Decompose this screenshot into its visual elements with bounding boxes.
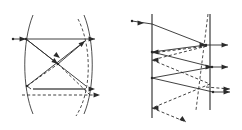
right-panel-dots	[131, 20, 215, 94]
curved-mirror-ray-diagram	[12, 15, 100, 116]
ray-down-to-right-mirror-2	[152, 52, 212, 67]
incoming-start-dot	[131, 20, 134, 23]
lower-dashed-exit-arrow	[94, 93, 100, 98]
dashed-left-to-center	[27, 64, 58, 86]
right-mirror-node-1	[205, 44, 208, 47]
left-mirror-node-1	[151, 51, 154, 54]
dashed-exit-right-arrow	[224, 87, 230, 92]
left-mirror-node-2	[151, 77, 154, 80]
ray-down-to-right-mirror-3	[152, 78, 213, 92]
entry-point-dot	[12, 38, 15, 41]
exit-top-right-arrow	[222, 43, 228, 48]
right-panel-dashed-rays	[152, 46, 230, 122]
left-panel-arcs	[25, 15, 93, 116]
top-ray-exit-arrow	[89, 37, 95, 42]
right-mirror-node-3	[212, 91, 215, 94]
dashed-exit-down-arrow	[179, 116, 187, 124]
left-mirror-contact-dot	[25, 38, 28, 41]
right-dashed-arc	[76, 19, 88, 116]
left-mirror-arc	[25, 15, 33, 114]
dashed-ray-4	[152, 84, 210, 108]
left-mirror-hit-arrow-2	[152, 58, 158, 63]
optical-ray-diagram-figure	[0, 0, 242, 130]
center-crossing-dot	[57, 63, 60, 66]
lower-solid-exit-arrow	[89, 87, 95, 92]
right-panel-dashed-arcs	[196, 14, 208, 110]
ray-down-to-right-mirror-1	[152, 24, 206, 45]
lower-left-contact-dot	[26, 85, 29, 88]
dashed-ray-1	[152, 46, 207, 53]
dashed-center-to-lower-right	[58, 64, 90, 95]
plane-mirror-ray-diagram	[131, 14, 230, 124]
ray-lower-left-to-upper-right	[27, 41, 85, 86]
right-mirror-node-2	[211, 66, 214, 69]
exit-middle-right-arrow	[222, 65, 228, 70]
incoming-arrow	[138, 21, 144, 26]
figure-canvas	[0, 0, 242, 130]
left-panel-dashed-rays	[22, 64, 100, 95]
right-panel-solid-rays	[132, 21, 230, 92]
tilted-dashed-line	[196, 14, 208, 110]
ray-back-to-left-mirror-1	[152, 45, 206, 52]
